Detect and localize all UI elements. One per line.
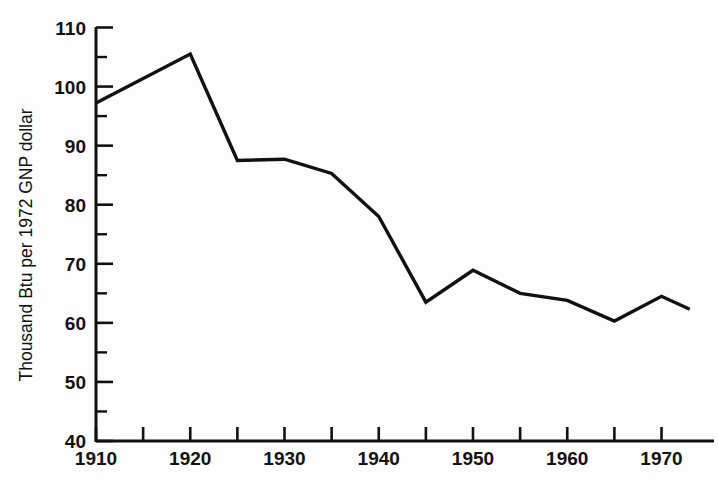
y-tick-label: 70: [65, 254, 86, 275]
line-chart: 405060708090100110 191019201930194019501…: [0, 0, 718, 488]
x-tick-label: 1910: [75, 448, 117, 469]
y-axis-tick-labels: 405060708090100110: [54, 18, 86, 453]
y-axis-ticks: [96, 28, 113, 442]
x-tick-label: 1970: [640, 448, 682, 469]
x-tick-label: 1920: [169, 448, 211, 469]
y-tick-label: 90: [65, 136, 86, 157]
axis-lines: [96, 27, 714, 442]
x-axis-tick-labels: 1910192019301940195019601970: [75, 448, 683, 469]
y-tick-label: 50: [65, 372, 86, 393]
x-tick-label: 1940: [358, 448, 400, 469]
x-axis-ticks: [96, 427, 662, 441]
x-tick-label: 1960: [546, 448, 588, 469]
y-tick-label: 100: [54, 77, 86, 98]
chart-figure: 405060708090100110 191019201930194019501…: [0, 0, 718, 488]
x-tick-label: 1950: [452, 448, 494, 469]
y-axis-title: Thousand Btu per 1972 GNP dollar: [16, 108, 36, 381]
y-tick-label: 110: [55, 18, 86, 39]
y-tick-label: 80: [65, 195, 86, 216]
x-tick-label: 1930: [263, 448, 305, 469]
data-series-line: [96, 54, 690, 321]
y-tick-label: 60: [65, 313, 86, 334]
